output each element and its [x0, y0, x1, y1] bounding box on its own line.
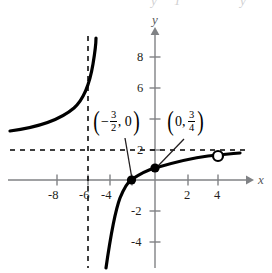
- fraction-denominator: 4: [188, 123, 195, 134]
- y-tick-label-6: 6: [137, 81, 143, 96]
- open-paren: (: [167, 111, 173, 133]
- y-tick-label--4: -4: [131, 235, 141, 250]
- y-axis-label: y: [152, 12, 158, 28]
- zero-comma: 0,: [175, 115, 186, 129]
- x-axis-label: x: [258, 172, 264, 188]
- curve-left-branch: [10, 38, 96, 131]
- open-paren: (: [93, 111, 99, 133]
- y-tick-label-8: 8: [137, 50, 143, 65]
- plot-canvas: [0, 0, 272, 273]
- comma-zero: , 0: [118, 115, 132, 129]
- point-y-intercept: [150, 163, 159, 172]
- y-tick-label-2: 2: [137, 143, 143, 158]
- fraction-numerator: 3: [188, 110, 195, 121]
- fraction-numerator: 3: [110, 110, 117, 121]
- y-tick-label--2: -2: [131, 204, 141, 219]
- close-paren: ): [133, 111, 139, 133]
- x-tick-label--6: -6: [79, 188, 89, 203]
- annotation-x-intercept: ( − 3 2 , 0 ): [92, 110, 141, 134]
- x-tick-label--4: -4: [101, 188, 111, 203]
- y-axis-arrowhead: [151, 27, 160, 35]
- minus-sign: −: [101, 115, 109, 129]
- x-axis-arrowhead: [246, 176, 254, 185]
- fraction-three-quarters: 3 4: [188, 110, 195, 134]
- graph-figure: y 1 y: [0, 0, 272, 273]
- x-tick-label--8: -8: [48, 188, 58, 203]
- axis-lines: [8, 27, 254, 268]
- x-tick-label-4: 4: [214, 188, 220, 203]
- point-x-intercept: [127, 175, 136, 184]
- fraction-denominator: 2: [110, 123, 117, 134]
- annotation-y-intercept: ( 0, 3 4 ): [166, 110, 205, 134]
- fraction-three-halves: 3 2: [110, 110, 117, 134]
- curve-right-branch: [106, 153, 240, 268]
- x-tick-label-2: 2: [184, 188, 190, 203]
- leader-line-x-intercept: [125, 138, 132, 176]
- close-paren: ): [197, 111, 203, 133]
- point-hole-open-circle: [213, 151, 223, 161]
